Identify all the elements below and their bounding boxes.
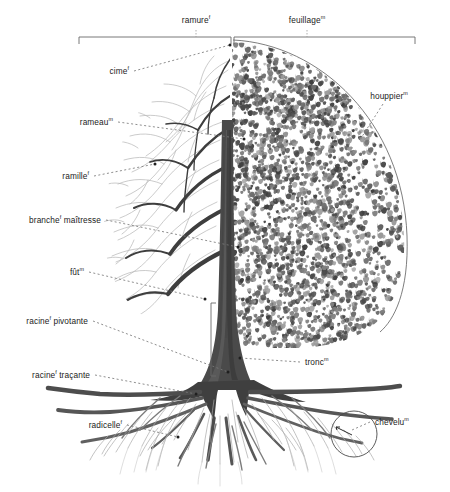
label-houppier: houppierm [370, 91, 408, 100]
label-radicelle: radicellef [89, 420, 122, 429]
branche-maitresse-leader [106, 220, 238, 247]
tree-anatomy-diagram: ramureffeuillagemcimefhouppiermrameaumra… [0, 0, 450, 492]
tronc-leader [240, 358, 300, 362]
cime-leader [134, 45, 230, 71]
label-fut: fûtm [70, 267, 84, 276]
chevelu-magnifier [331, 411, 377, 457]
ramille-leader [94, 164, 155, 176]
label-ramure: ramuref [182, 15, 210, 24]
label-racine-tracante: racinef traçante [32, 370, 90, 379]
feuillage-bracket [234, 30, 415, 44]
chevelu-leader [352, 422, 370, 430]
label-chevelu: chevelum [375, 417, 409, 426]
ramure-bracket [79, 30, 231, 44]
label-tronc: troncm [305, 357, 328, 366]
label-ramille: ramillef [62, 171, 89, 180]
label-cime: cimef [110, 66, 129, 75]
label-branche-maitresse: branchef maîtresse [29, 215, 101, 224]
racine-pivotante-leader [93, 321, 228, 372]
label-racine-pivotante: racinef pivotante [26, 316, 88, 325]
branch-structure [96, 56, 231, 320]
label-feuillage: feuillagem [289, 15, 325, 24]
foliage-canopy [226, 40, 414, 355]
label-rameau: rameaum [80, 117, 113, 126]
